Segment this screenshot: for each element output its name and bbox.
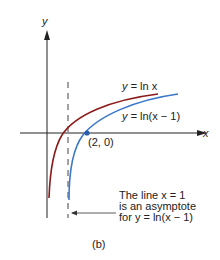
annotation-line-3: for y = ln(x − 1) <box>119 211 193 223</box>
y-axis-arrow-icon <box>44 30 50 40</box>
x-axis-label: x <box>203 127 209 139</box>
y-axis-label: y <box>42 15 48 27</box>
label-ln-x-minus-1: y = ln(x − 1) <box>122 110 180 122</box>
figure-caption: (b) <box>92 238 105 250</box>
label-ln-x: y = ln x <box>122 80 157 92</box>
annotation-arrow-head-icon <box>71 211 77 216</box>
point-2-0 <box>84 130 89 135</box>
point-label: (2, 0) <box>88 136 114 148</box>
